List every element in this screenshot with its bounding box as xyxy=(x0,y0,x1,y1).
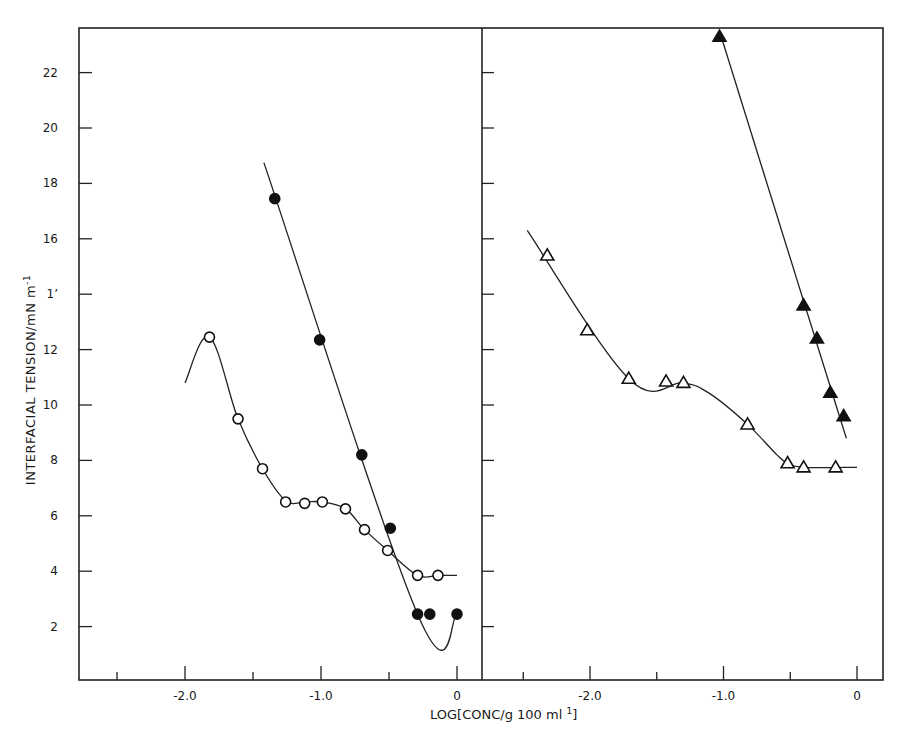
y-tick-label: 2 xyxy=(50,620,58,634)
data-point-circle-open xyxy=(233,414,243,424)
series-circle-open xyxy=(185,332,457,580)
series-triangle-open xyxy=(527,230,857,471)
data-point-circle-filled xyxy=(425,609,435,619)
data-point-circle-filled xyxy=(413,609,423,619)
data-point-triangle-filled xyxy=(824,386,837,397)
data-point-circle-open xyxy=(433,570,443,580)
y-tick-label: 20 xyxy=(43,121,58,135)
y-tick-label: 8 xyxy=(50,453,58,467)
y-tick-label: 12 xyxy=(43,343,58,357)
data-point-triangle-open xyxy=(829,461,842,472)
y-tick-label: 18 xyxy=(43,176,58,190)
plot-frame xyxy=(79,28,883,680)
data-point-triangle-filled xyxy=(810,332,823,343)
data-point-circle-open xyxy=(317,497,327,507)
x-axis-label: LOG[CONC/g 100 ml 1] xyxy=(430,706,577,722)
data-point-circle-open xyxy=(413,570,423,580)
x-tick-label: 0 xyxy=(453,689,461,703)
x-tick-label: -2.0 xyxy=(173,689,196,703)
y-tick-label: 6 xyxy=(50,509,58,523)
x-axis-label-end: ] xyxy=(572,707,577,722)
y-tick-label: 4 xyxy=(50,564,58,578)
data-point-triangle-open xyxy=(581,324,594,335)
y-tick-label: 1’ xyxy=(47,287,58,301)
data-series xyxy=(185,30,857,650)
data-point-circle-filled xyxy=(315,335,325,345)
x-tick-label: -1.0 xyxy=(309,689,332,703)
data-point-circle-filled xyxy=(452,609,462,619)
x-tick-label: -1.0 xyxy=(712,689,735,703)
series-triangle-filled xyxy=(713,30,850,438)
data-point-triangle-filled xyxy=(797,299,810,310)
data-point-circle-filled xyxy=(270,194,280,204)
interfacial-tension-chart: 246810121’16182022-2.0-1.00-2.0-1.00 xyxy=(0,0,902,739)
y-tick-label: 10 xyxy=(43,398,58,412)
y-tick-label: 16 xyxy=(43,232,58,246)
data-point-circle-open xyxy=(258,464,268,474)
data-point-circle-filled xyxy=(385,523,395,533)
data-point-circle-open xyxy=(360,525,370,535)
data-point-circle-filled xyxy=(357,450,367,460)
data-point-triangle-open xyxy=(781,457,794,468)
data-point-triangle-filled xyxy=(713,30,726,41)
y-axis-label: INTERFACIAL TENSION/mN m-1 xyxy=(22,275,38,485)
data-point-circle-open xyxy=(383,545,393,555)
data-point-circle-open xyxy=(204,332,214,342)
data-point-circle-open xyxy=(300,498,310,508)
axis-ticks: 246810121’16182022-2.0-1.00-2.0-1.00 xyxy=(43,66,861,703)
x-tick-label: 0 xyxy=(853,689,861,703)
data-point-circle-open xyxy=(340,504,350,514)
x-axis-label-text: LOG[CONC/g 100 ml xyxy=(430,707,562,722)
data-point-triangle-open xyxy=(677,376,690,387)
data-point-circle-open xyxy=(281,497,291,507)
x-tick-label: -2.0 xyxy=(578,689,601,703)
data-point-triangle-open xyxy=(660,375,673,386)
y-axis-label-text: INTERFACIAL TENSION/mN m xyxy=(23,285,38,485)
y-axis-label-sup: -1 xyxy=(22,275,32,285)
series-circle-filled xyxy=(264,163,462,651)
y-tick-label: 22 xyxy=(43,66,58,80)
